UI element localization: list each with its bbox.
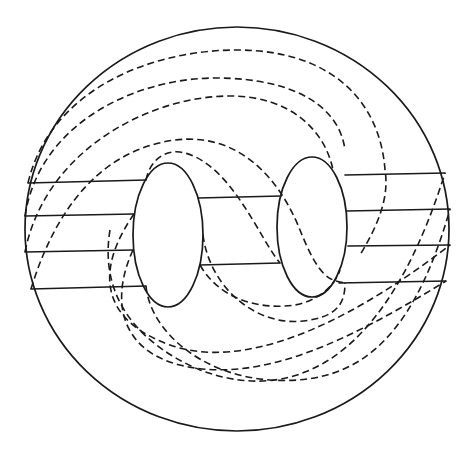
solid-segment: [25, 214, 134, 216]
dashed-curve: [146, 209, 450, 380]
solid-segment: [348, 245, 450, 246]
dashed-curve: [108, 173, 445, 381]
right-hole: [277, 157, 347, 297]
left-hole: [133, 163, 203, 307]
solid-segment: [347, 209, 450, 211]
solid-segment: [345, 173, 445, 175]
dashed-curve: [203, 235, 345, 322]
dashed-curve: [28, 50, 386, 255]
solid-segment: [31, 286, 146, 289]
solid-segment: [198, 196, 281, 198]
solid-segment: [25, 250, 133, 252]
solid-segment: [339, 281, 446, 283]
holes: [133, 157, 347, 307]
double-torus-diagram: [0, 0, 474, 450]
dashed-curve: [200, 265, 340, 306]
dashed-curve: [25, 78, 345, 216]
outer-boundary: [25, 27, 449, 431]
solid-segment: [200, 263, 280, 265]
solid-segment: [28, 180, 146, 183]
dashed-curve: [25, 96, 333, 252]
